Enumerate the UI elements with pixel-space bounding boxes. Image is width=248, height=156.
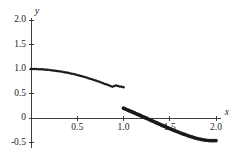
y-tick-label: 2.0 [0,15,26,25]
y-tick-label: 1.5 [0,40,26,50]
plot-area [0,0,248,156]
x-axis-label: x [225,108,229,118]
y-tick-label: -0.5 [0,138,26,148]
y-tick-label: 1.0 [0,64,26,74]
y-axis-label: y [35,7,39,17]
y-tick-label: 0 [0,113,26,123]
data-point [214,139,218,143]
x-tick-label: 0.5 [61,123,93,133]
y-tick-label: 0.5 [0,89,26,99]
x-tick-label: 1.5 [154,123,186,133]
x-tick-label: 2.0 [200,123,232,133]
x-tick-label: 1.0 [108,123,140,133]
chart-figure: 2.01.51.00.50-0.50.51.01.52.0 y x [0,0,248,156]
data-point [122,86,125,89]
series-branch-left [30,68,125,89]
